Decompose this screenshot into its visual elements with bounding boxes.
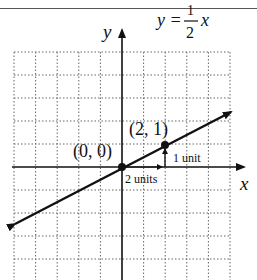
x-axis-label: x — [239, 173, 249, 194]
svg-text:1: 1 — [187, 3, 194, 18]
run-label: 2 units — [125, 172, 158, 186]
point-label: (2, 1) — [129, 119, 168, 140]
svg-text:y =: y = — [155, 10, 182, 30]
origin-label: (0, 0) — [73, 141, 112, 162]
y-axis-label: y — [101, 21, 112, 42]
equation: y = 1 2 x — [155, 3, 209, 41]
graph: y x y = 1 2 x (0, 0) (2, 1) 2 units 1 un… — [0, 0, 257, 280]
svg-text:2: 2 — [186, 24, 194, 41]
point-2-1 — [161, 141, 169, 149]
svg-text:x: x — [200, 10, 209, 30]
rise-label: 1 unit — [173, 151, 201, 165]
origin-point — [118, 163, 126, 171]
